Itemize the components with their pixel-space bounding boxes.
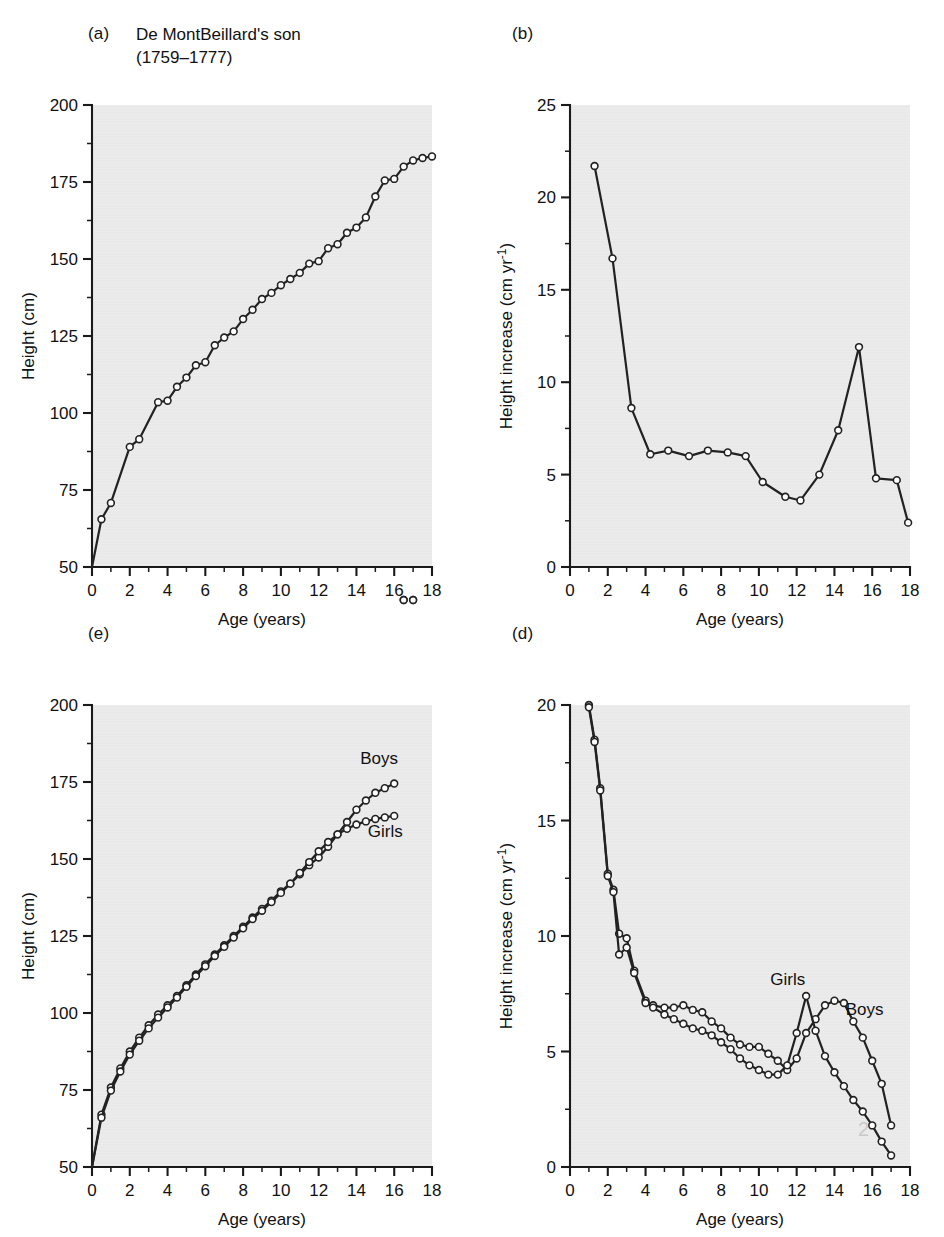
svg-text:16: 16 xyxy=(385,1181,404,1200)
svg-text:8: 8 xyxy=(238,581,247,600)
panel-b-label: (b) xyxy=(512,24,533,44)
svg-text:175: 175 xyxy=(50,773,78,792)
svg-text:2: 2 xyxy=(125,581,134,600)
svg-text:18: 18 xyxy=(901,581,920,600)
svg-text:10: 10 xyxy=(271,581,290,600)
svg-text:2: 2 xyxy=(603,581,612,600)
svg-text:12: 12 xyxy=(309,1181,328,1200)
svg-text:8: 8 xyxy=(716,1181,725,1200)
panel-e-label: (e) xyxy=(88,624,109,644)
svg-text:100: 100 xyxy=(50,404,78,423)
svg-text:10: 10 xyxy=(537,927,556,946)
svg-text:2: 2 xyxy=(125,1181,134,1200)
panel-b-chart: 0510152025024681012141618Age (years)Heig… xyxy=(472,0,944,618)
svg-text:8: 8 xyxy=(716,581,725,600)
svg-text:14: 14 xyxy=(825,1181,844,1200)
svg-text:14: 14 xyxy=(825,581,844,600)
svg-text:18: 18 xyxy=(901,1181,920,1200)
svg-text:16: 16 xyxy=(863,1181,882,1200)
svg-text:6: 6 xyxy=(201,1181,210,1200)
svg-text:4: 4 xyxy=(641,581,650,600)
panel-a-title: De MontBeillard's son (1759–1777) xyxy=(136,24,301,70)
series-label-girls: Girls xyxy=(770,970,805,989)
panel-e: (e) 5075100125150175200024681012141618Ag… xyxy=(0,600,472,1237)
svg-text:Height (cm): Height (cm) xyxy=(19,292,38,380)
svg-text:20: 20 xyxy=(537,696,556,715)
svg-text:0: 0 xyxy=(565,581,574,600)
svg-text:2: 2 xyxy=(603,1181,612,1200)
svg-text:Height increase (cm yr-1): Height increase (cm yr-1) xyxy=(495,843,516,1029)
panel-b: (b) 0510152025024681012141618Age (years)… xyxy=(472,0,944,618)
panel-a-chart: 5075100125150175200024681012141618Age (y… xyxy=(0,0,472,618)
svg-text:4: 4 xyxy=(163,581,172,600)
svg-text:6: 6 xyxy=(201,581,210,600)
svg-text:0: 0 xyxy=(547,558,556,577)
svg-text:15: 15 xyxy=(537,281,556,300)
svg-text:50: 50 xyxy=(59,558,78,577)
panel-a: (a) De MontBeillard's son (1759–1777) 50… xyxy=(0,0,472,618)
svg-text:175: 175 xyxy=(50,173,78,192)
svg-text:20: 20 xyxy=(537,188,556,207)
svg-text:10: 10 xyxy=(271,1181,290,1200)
svg-text:125: 125 xyxy=(50,927,78,946)
svg-text:18: 18 xyxy=(423,1181,442,1200)
svg-text:25: 25 xyxy=(537,96,556,115)
svg-text:12: 12 xyxy=(787,581,806,600)
svg-text:4: 4 xyxy=(163,1181,172,1200)
svg-text:150: 150 xyxy=(50,250,78,269)
svg-text:Height (cm): Height (cm) xyxy=(19,892,38,980)
svg-text:0: 0 xyxy=(87,1181,96,1200)
svg-text:5: 5 xyxy=(547,466,556,485)
svg-text:14: 14 xyxy=(347,581,366,600)
svg-text:0: 0 xyxy=(547,1158,556,1177)
svg-text:200: 200 xyxy=(50,696,78,715)
scan-artifact: 2 xyxy=(858,1118,869,1141)
panel-e-chart: 5075100125150175200024681012141618Age (y… xyxy=(0,600,472,1237)
svg-text:14: 14 xyxy=(347,1181,366,1200)
panel-d: (d) 05101520024681012141618Age (years)He… xyxy=(472,600,944,1237)
svg-text:Age (years): Age (years) xyxy=(218,1210,306,1229)
svg-text:10: 10 xyxy=(537,373,556,392)
panel-a-label: (a) xyxy=(88,24,109,44)
svg-text:200: 200 xyxy=(50,96,78,115)
svg-text:125: 125 xyxy=(50,327,78,346)
growth-figure: (a) De MontBeillard's son (1759–1777) 50… xyxy=(0,0,944,1237)
svg-text:0: 0 xyxy=(565,1181,574,1200)
svg-text:150: 150 xyxy=(50,850,78,869)
svg-text:8: 8 xyxy=(238,1181,247,1200)
svg-text:50: 50 xyxy=(59,1158,78,1177)
panel-d-chart: 05101520024681012141618Age (years)Height… xyxy=(472,600,944,1237)
svg-text:Age (years): Age (years) xyxy=(696,1210,784,1229)
svg-text:75: 75 xyxy=(59,1081,78,1100)
series-label-boys: Boys xyxy=(360,749,398,768)
series-label-boys: Boys xyxy=(846,1000,884,1019)
svg-text:100: 100 xyxy=(50,1004,78,1023)
svg-text:15: 15 xyxy=(537,812,556,831)
svg-text:Height increase (cm yr-1): Height increase (cm yr-1) xyxy=(495,243,516,429)
svg-text:12: 12 xyxy=(309,581,328,600)
svg-text:4: 4 xyxy=(641,1181,650,1200)
svg-text:5: 5 xyxy=(547,1043,556,1062)
svg-text:6: 6 xyxy=(679,1181,688,1200)
svg-text:6: 6 xyxy=(679,581,688,600)
svg-text:75: 75 xyxy=(59,481,78,500)
svg-text:10: 10 xyxy=(749,581,768,600)
series-label-girls: Girls xyxy=(368,822,403,841)
svg-text:16: 16 xyxy=(863,581,882,600)
panel-d-label: (d) xyxy=(512,624,533,644)
svg-text:18: 18 xyxy=(423,581,442,600)
svg-text:12: 12 xyxy=(787,1181,806,1200)
svg-text:0: 0 xyxy=(87,581,96,600)
svg-text:10: 10 xyxy=(749,1181,768,1200)
